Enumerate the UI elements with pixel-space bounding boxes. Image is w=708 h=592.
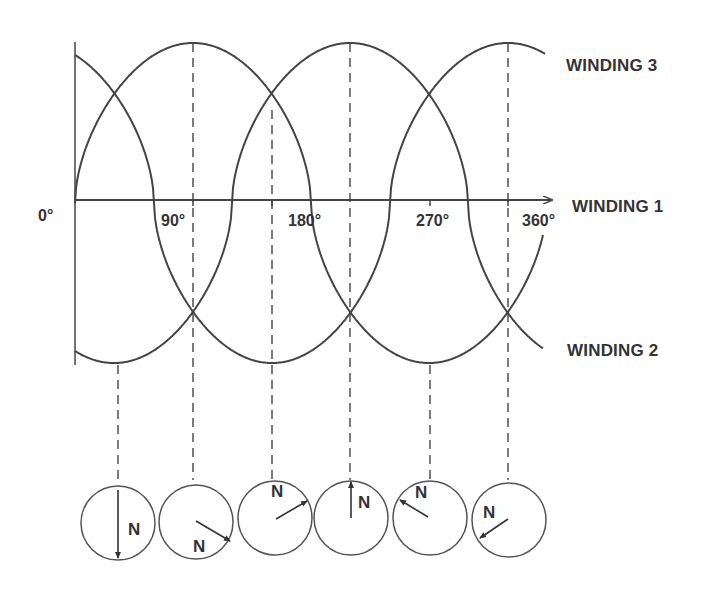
winding-3-waveform	[75, 43, 543, 363]
pole-label-4: N	[358, 493, 370, 513]
pole-label-3: N	[271, 482, 283, 502]
pole-label-2: N	[193, 537, 205, 557]
label-90-degrees: 90°	[161, 212, 185, 230]
pole-label-1: N	[128, 520, 140, 540]
arrow-icon	[276, 501, 307, 519]
label-0-degrees: 0°	[38, 207, 53, 225]
dashed-guide-lines	[118, 43, 508, 485]
three-phase-waveform-diagram	[0, 0, 708, 592]
label-270-degrees: 270°	[416, 212, 449, 230]
rotor-position-1	[81, 486, 155, 560]
pole-label-5: N	[415, 483, 427, 503]
label-360-degrees: 360°	[522, 212, 555, 230]
label-180-degrees: 180°	[288, 212, 321, 230]
label-winding-3: WINDING 3	[566, 56, 658, 76]
winding-1-waveform	[75, 43, 543, 363]
rotor-position-5	[393, 481, 467, 555]
pole-label-6: N	[483, 503, 495, 523]
label-winding-1: WINDING 1	[572, 197, 664, 217]
label-winding-2: WINDING 2	[567, 341, 659, 361]
rotor-position-4	[314, 481, 388, 555]
